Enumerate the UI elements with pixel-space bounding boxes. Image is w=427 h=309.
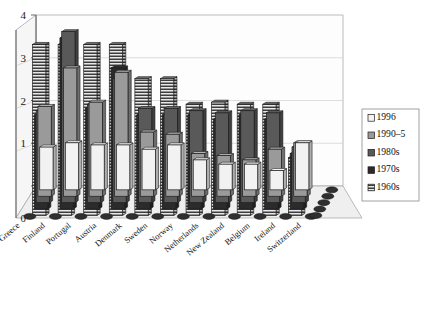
floor-marker <box>310 212 322 218</box>
bar-side-face <box>232 162 235 190</box>
bar-denmark-1996 <box>142 147 159 190</box>
legend-swatch-1980s <box>368 149 375 156</box>
bar-side-face <box>181 143 184 190</box>
floor-marker <box>75 213 87 219</box>
category-label-sweden: Sweden <box>122 220 150 246</box>
floor-marker <box>280 213 292 219</box>
legend-label-1980s: 1980s <box>377 146 400 157</box>
bar-new-zealand-1996 <box>244 162 261 190</box>
bar-front-face <box>270 171 283 190</box>
bar-front-face <box>142 149 155 190</box>
floor-marker <box>177 213 189 219</box>
bar-netherlands-1996 <box>219 162 236 190</box>
floor-marker <box>24 213 36 219</box>
bar-side-face <box>207 158 210 190</box>
bar-front-face <box>193 160 206 190</box>
bar-side-face <box>258 162 261 190</box>
bar-side-face <box>155 147 158 190</box>
floor-marker <box>228 213 240 219</box>
category-label-greece: Greece <box>0 220 22 243</box>
bar-greece-1996 <box>40 145 57 190</box>
bar-front-face <box>296 143 309 190</box>
floor-marker <box>318 200 330 206</box>
bar-front-face <box>168 145 181 190</box>
category-label-belgium: Belgium <box>223 220 252 247</box>
legend-swatch-19905 <box>368 132 375 139</box>
floor-marker <box>126 213 138 219</box>
legend-label-19905: 1990–5 <box>377 128 406 139</box>
bar-finland-1996 <box>65 141 82 190</box>
floor-marker <box>101 213 113 219</box>
bar-front-face <box>219 164 232 190</box>
legend-swatch-1960s <box>368 184 375 191</box>
chart-container: 4 3 2 1 0 GreeceFinlandPortugalAustriaDe… <box>0 0 427 309</box>
category-labels: GreeceFinlandPortugalAustriaDenmarkSwede… <box>0 220 303 258</box>
floor-marker <box>49 213 61 219</box>
bar-side-face <box>130 143 133 190</box>
bar-portugal-1996 <box>91 143 108 190</box>
legend-label-1970s: 1970s <box>377 163 400 174</box>
bar-sweden-1996 <box>168 143 185 190</box>
category-label-portugal: Portugal <box>44 220 73 247</box>
floor-marker <box>152 213 164 219</box>
bar-side-face <box>79 141 82 190</box>
category-label-denmark: Denmark <box>93 220 124 249</box>
bar-front-face <box>65 143 78 190</box>
bar-side-face <box>104 143 107 190</box>
bar-side-face <box>309 141 312 190</box>
y-tick-label-4: 4 <box>21 9 27 21</box>
legend-swatch-1996 <box>368 115 375 122</box>
bar-chart-3d: 4 3 2 1 0 GreeceFinlandPortugalAustriaDe… <box>0 0 427 309</box>
bar-front-face <box>116 145 129 190</box>
y-tick-label-3: 3 <box>21 52 27 64</box>
bar-ireland-1996 <box>296 141 313 190</box>
bar-side-face <box>53 145 56 190</box>
bar-front-face <box>91 145 104 190</box>
bar-front-face <box>40 147 53 190</box>
bar-austria-1996 <box>116 143 133 190</box>
y-tick-label-1: 1 <box>21 137 27 149</box>
legend-label-1996: 1996 <box>377 111 396 122</box>
floor-marker <box>326 187 338 193</box>
floor-marker <box>322 193 334 199</box>
legend-label-1960s: 1960s <box>377 181 400 192</box>
floor-marker <box>314 206 326 212</box>
floor-marker <box>254 213 266 219</box>
bar-side-face <box>283 169 286 190</box>
legend-swatch-1970s <box>368 167 375 174</box>
bar-belgium-1996 <box>270 169 287 190</box>
y-tick-label-2: 2 <box>21 95 27 107</box>
legend: 19961990–51980s1970s1960s <box>362 109 419 201</box>
bar-norway-1996 <box>193 158 210 190</box>
floor-marker <box>203 213 215 219</box>
bar-front-face <box>244 164 257 190</box>
